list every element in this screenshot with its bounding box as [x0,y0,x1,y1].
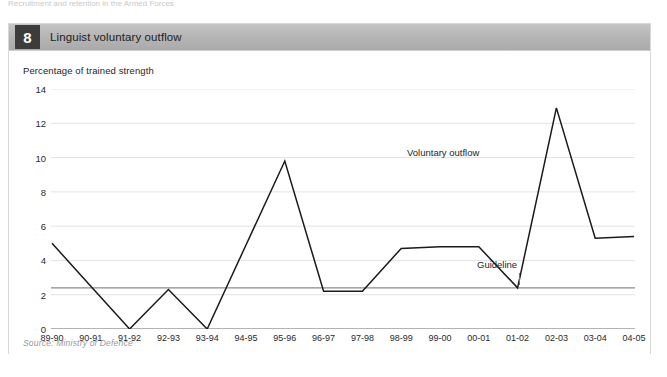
page-top-text-sliver: Recruitment and retention in the Armed F… [8,0,338,7]
x-axis-tick-label: 03-04 [584,333,607,343]
x-axis-tick-label: 92-93 [157,333,180,343]
x-axis-tick-label: 99-00 [428,333,451,343]
x-axis-tick-label: 02-03 [545,333,568,343]
y-axis-tick-label: 8 [41,186,46,197]
figure-number-badge: 8 [15,25,40,49]
figure-body: Percentage of trained strength 024681012… [9,51,650,354]
x-axis-tick-label: 97-98 [351,333,374,343]
y-axis-tick-label: 2 [41,289,46,300]
figure-page: Recruitment and retention in the Armed F… [0,0,667,377]
chart-subtitle: Percentage of trained strength [23,65,154,76]
chart-canvas [51,89,635,329]
x-axis-tick-label: 94-95 [234,333,257,343]
figure-card: 8 Linguist voluntary outflow Percentage … [8,23,651,354]
series-line-voluntary-outflow [52,108,634,329]
y-axis-tick-label: 6 [41,221,46,232]
y-axis-labels: 02468101214 [23,89,49,329]
x-axis-labels: 89-9090-9191-9292-9393-9494-9595-9696-97… [51,333,635,349]
x-axis-tick-label: 93-94 [196,333,219,343]
y-axis-tick-label: 10 [35,152,46,163]
figure-title: Linguist voluntary outflow [50,24,182,50]
annotation-voluntary-outflow: Voluntary outflow [407,147,479,158]
series-lines [52,108,634,329]
x-axis-tick-label: 95-96 [273,333,296,343]
y-axis-tick-label: 4 [41,255,46,266]
x-axis-tick-label: 01-02 [506,333,529,343]
x-axis-tick-label: 96-97 [312,333,335,343]
chart-plot-area: 02468101214 89-9090-9191-9292-9393-9494-… [23,89,635,329]
gridlines [51,89,635,329]
annotation-guideline: Guideline [477,259,517,270]
line-chart-svg [51,89,635,329]
figure-source: Source: Ministry of Defence [23,338,133,348]
x-axis-tick-label: 00-01 [467,333,490,343]
x-axis-tick-label: 98-99 [390,333,413,343]
y-axis-tick-label: 14 [35,84,46,95]
x-axis-tick-label: 04-05 [622,333,645,343]
y-axis-tick-label: 12 [35,118,46,129]
figure-header-bar: 8 Linguist voluntary outflow [9,24,650,51]
annotation-guideline-tick [519,273,520,285]
